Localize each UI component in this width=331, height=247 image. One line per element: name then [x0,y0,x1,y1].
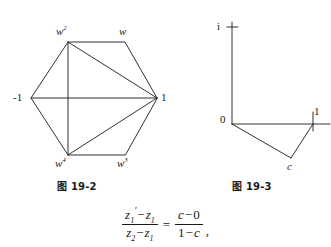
segment-origin-to-c [232,124,291,158]
right-fraction: c−0 1−c [175,208,203,241]
segment-c-to-one [291,124,313,158]
vertex-label-w2: w2 [56,26,67,37]
figures-area: w2 w -1 1 w4 w3 图 19-2 i 0 1 c 图 19-3 [0,0,331,200]
figure-19-2-caption: 图 19-2 [57,178,97,193]
vertex-label-w4: w4 [55,158,66,169]
vertex-label-minus-one: -1 [13,92,22,103]
equation: z1'−z1 z2−z1 = c−0 1−c , [122,208,209,241]
axis-label-i: i [217,21,220,32]
equals-sign: = [161,217,172,233]
point-label-origin: 0 [220,114,226,125]
figure-19-3-caption: 图 19-3 [232,178,272,193]
left-fraction: z1'−z1 z2−z1 [122,208,158,241]
formula-block: z1'−z1 z2−z1 = c−0 1−c , [0,202,331,247]
right-denominator: 1−c [175,226,203,241]
left-denominator: z2−z1 [123,226,156,241]
point-label-one: 1 [314,106,320,117]
right-numerator: c−0 [175,208,203,223]
point-label-c: c [287,161,292,172]
vertex-label-w3: w3 [117,158,128,169]
vertex-label-w: w [119,26,126,37]
diagonal-w2-to-1 [68,42,157,98]
vertex-label-one: 1 [161,92,167,103]
left-numerator: z1'−z1 [122,208,158,223]
diagonal-w4-to-1 [68,98,157,155]
trailing-comma: , [206,223,209,241]
